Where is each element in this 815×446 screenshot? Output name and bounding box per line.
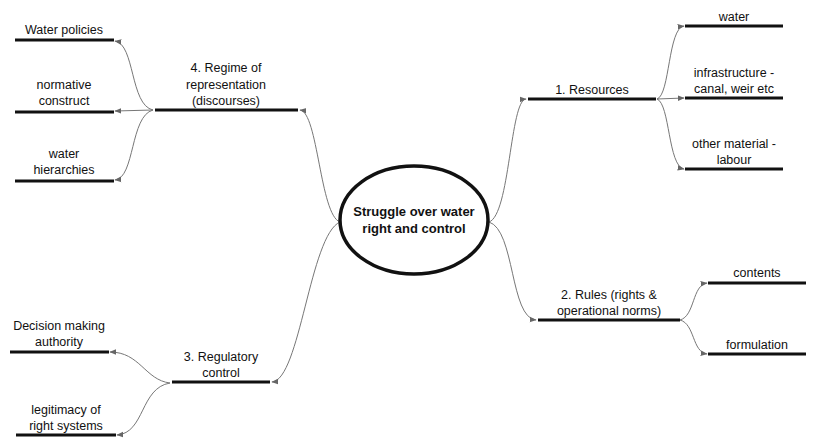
branch-label-line-1: 2. Rules (rights &: [561, 288, 658, 302]
node-label: contents: [733, 266, 780, 280]
connector-regulatory-decision: [110, 352, 170, 383]
node-infrastructure[interactable]: infrastructure - canal, weir etc: [685, 66, 783, 98]
node-other-material[interactable]: other material - labour: [685, 137, 783, 169]
connector-rules-formulation: [680, 320, 707, 354]
branch-label-line-2: control: [202, 366, 240, 380]
node-label-line-1: infrastructure -: [694, 66, 775, 80]
node-label-line-1: normative: [37, 78, 92, 92]
connector-regulatory-legitimacy: [117, 383, 170, 435]
node-water-policies[interactable]: Water policies: [15, 23, 114, 40]
connector-rules-contents-visible: [680, 283, 707, 320]
node-label-line-1: water: [48, 147, 80, 161]
node-label: formulation: [726, 338, 788, 352]
connector-representation-policies: [115, 41, 153, 110]
branch-label: 1. Resources: [555, 83, 629, 97]
node-label-line-2: authority: [35, 335, 84, 349]
node-label-line-1: Decision making: [13, 319, 105, 333]
node-label-line-1: legitimacy of: [31, 403, 101, 417]
connector-center-to-representation: [300, 110, 340, 222]
node-formulation[interactable]: formulation: [708, 338, 806, 354]
node-legitimacy[interactable]: legitimacy of right systems: [16, 403, 116, 435]
center-node[interactable]: Struggle over water right and control: [340, 166, 488, 274]
center-label-line-1: Struggle over water: [353, 204, 474, 219]
connector-resources-infrastructure: [657, 98, 684, 99]
node-contents[interactable]: contents: [708, 266, 806, 283]
branch-label-line-1: 4. Regime of: [191, 61, 262, 75]
node-label-line-2: canal, weir etc: [694, 82, 774, 96]
node-label-line-2: hierarchies: [33, 163, 94, 177]
connector-resources-water: [657, 26, 684, 99]
center-label-line-2: right and control: [362, 221, 465, 236]
node-decision-making[interactable]: Decision making authority: [10, 319, 109, 352]
branch-representation[interactable]: 4. Regime of representation (discourses): [155, 61, 298, 110]
node-label-line-2: right systems: [29, 419, 103, 433]
mind-map: Struggle over water right and control 1.…: [0, 0, 815, 446]
branch-resources[interactable]: 1. Resources: [528, 83, 656, 99]
node-label-line-1: other material -: [692, 137, 776, 151]
branch-label-line-1: 3. Regulatory: [184, 350, 259, 364]
branch-rules[interactable]: 2. Rules (rights & operational norms): [538, 288, 680, 320]
branch-regulatory[interactable]: 3. Regulatory control: [172, 350, 270, 382]
connector-center-to-regulatory: [272, 222, 340, 382]
node-label: Water policies: [25, 23, 103, 37]
node-label: water: [718, 10, 750, 24]
node-label-line-2: labour: [717, 153, 752, 167]
connector-representation-normative: [115, 110, 153, 111]
node-normative-construct[interactable]: normative construct: [15, 78, 114, 112]
node-water[interactable]: water: [685, 10, 783, 26]
connector-representation-hierarchies: [115, 110, 153, 180]
node-water-hierarchies[interactable]: water hierarchies: [15, 147, 114, 181]
connector-center-to-rules: [489, 222, 536, 320]
branch-label-line-2: representation: [186, 78, 266, 92]
center-ellipse: [340, 166, 488, 274]
branch-label-line-2: operational norms): [557, 304, 661, 318]
node-label-line-2: construct: [39, 94, 90, 108]
connector-resources-other: [657, 99, 684, 169]
branch-label-line-3: (discourses): [192, 94, 260, 108]
connector-center-to-resources: [489, 99, 526, 222]
